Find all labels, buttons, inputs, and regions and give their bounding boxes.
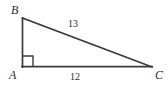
side-length-label-base: 12 [70,72,80,82]
right-angle-marker [23,56,34,67]
vertex-label-b: B [11,4,18,16]
vertex-label-c: C [155,69,163,81]
triangle-figure: B A C 13 12 [0,0,168,86]
triangle-hypotenuse-bc [23,18,153,67]
triangle-graphic [0,0,168,86]
side-length-label-hypotenuse: 13 [68,19,78,29]
vertex-label-a: A [9,69,16,81]
